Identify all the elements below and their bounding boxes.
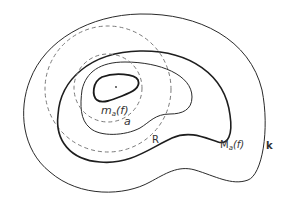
center-point xyxy=(115,86,117,88)
label-k: k xyxy=(266,140,273,151)
level-curve-M xyxy=(58,51,231,162)
label-M-a-f: Ma(f) xyxy=(220,139,244,152)
diagram: ma(f) a R Ma(f) k xyxy=(0,0,285,212)
label-R: R xyxy=(152,134,159,145)
level-curve-m xyxy=(94,74,139,101)
label-a: a xyxy=(124,115,131,128)
level-curve-middle xyxy=(81,62,192,134)
diagram-canvas: ma(f) a R Ma(f) k xyxy=(0,0,285,212)
